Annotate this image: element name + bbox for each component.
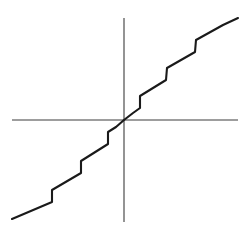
plot-area	[0, 0, 251, 236]
figure-container: Hand-drawn staircase-like monotone incre…	[0, 0, 251, 236]
